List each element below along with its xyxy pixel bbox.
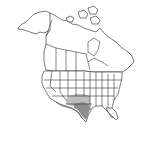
- canada: [44, 13, 134, 72]
- alaska: [18, 11, 52, 34]
- arctic-islands: [66, 6, 100, 24]
- north-america-map: [0, 0, 150, 144]
- range-map: [0, 0, 150, 144]
